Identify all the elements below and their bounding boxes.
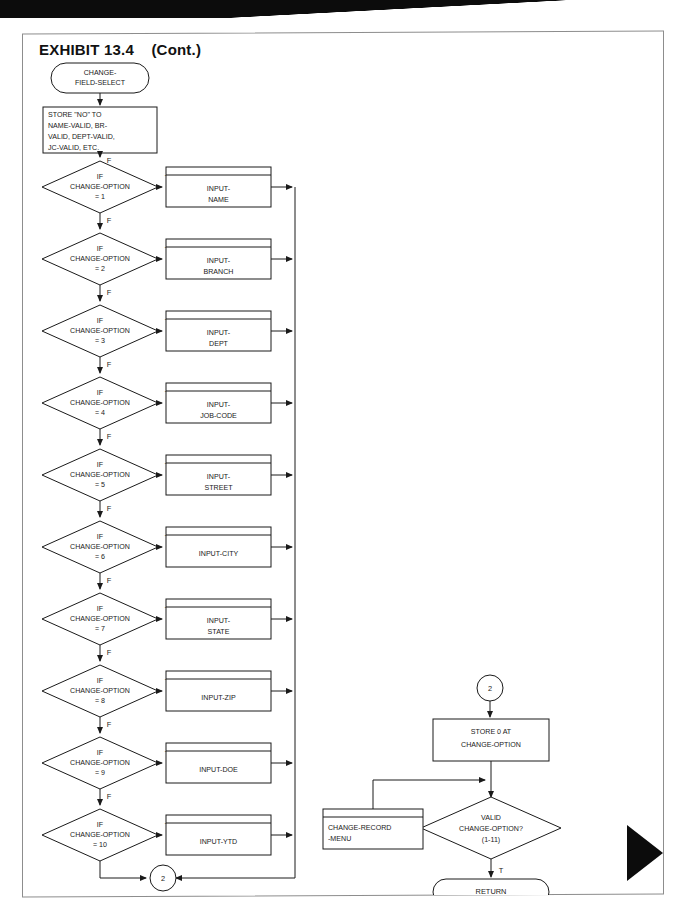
connector-right-2: 2	[477, 675, 503, 701]
decision-3-line2: CHANGE-OPTION	[70, 327, 130, 335]
change-record-menu-module: CHANGE-RECORD -MENU	[323, 809, 423, 849]
module-input-job-code: INPUT-JOB-CODE	[166, 383, 271, 423]
module-input-city: INPUT-CITY	[166, 527, 271, 567]
decision-2-false-label: F	[107, 216, 112, 225]
module-6-line1: INPUT-CITY	[199, 550, 239, 558]
decision-6-false-label: F	[107, 504, 112, 513]
decision-2-line3: = 2	[95, 265, 105, 273]
store-zero-process-box: STORE 0 AT CHANGE-OPTION	[433, 719, 549, 761]
decision-10-line2: CHANGE-OPTION	[70, 831, 130, 839]
module-1-line1: INPUT-	[207, 185, 231, 193]
page-sheet: EXHIBIT 13.4 (Cont.) CHANGE- FIELD-SELEC…	[22, 31, 664, 898]
valid-line3: (1-11)	[482, 836, 500, 844]
decision-3-line1: IF	[97, 317, 104, 325]
module-input-branch: INPUT-BRANCH	[166, 239, 271, 279]
decision-9-false-label: F	[107, 720, 112, 729]
decision-10-line1: IF	[97, 821, 104, 829]
menu-line2: -MENU	[328, 835, 351, 843]
module-2-line2: BRANCH	[204, 268, 234, 276]
decision-1-line2: CHANGE-OPTION	[70, 183, 130, 191]
decision-5-line3: = 5	[95, 481, 105, 489]
module-5-line2: STREET	[205, 484, 234, 492]
decision-change-option-3: IFCHANGE-OPTION= 3	[42, 305, 158, 357]
decision-10-line3: = 10	[93, 841, 107, 849]
decision-change-option-4: IFCHANGE-OPTION= 4	[42, 377, 158, 429]
module-4-line2: JOB-CODE	[200, 412, 237, 420]
decision-10-false-label: F	[107, 792, 112, 801]
decision-5-line2: CHANGE-OPTION	[70, 471, 130, 479]
module-input-street: INPUT-STREET	[166, 455, 271, 495]
decision-9-line1: IF	[97, 749, 104, 757]
connector-last-false-to-connector-2	[100, 861, 146, 878]
decision-change-option-6: IFCHANGE-OPTION= 6	[42, 521, 158, 573]
module-input-name: INPUT-NAME	[166, 167, 271, 207]
module-10-line1: INPUT-YTD	[200, 838, 237, 846]
decision-6-line1: IF	[97, 533, 104, 541]
scan-top-black-band	[0, 0, 684, 18]
decision-9-line2: CHANGE-OPTION	[70, 759, 130, 767]
init-line3: VALID, DEPT-VALID,	[48, 133, 115, 141]
module-8-line1: INPUT-ZIP	[201, 694, 236, 702]
decision-7-line2: CHANGE-OPTION	[70, 615, 130, 623]
decision-4-line1: IF	[97, 389, 104, 397]
decision-8-line2: CHANGE-OPTION	[70, 687, 130, 695]
module-input-state: INPUT-STATE	[166, 599, 271, 639]
store-zero-line1: STORE 0 AT	[471, 728, 512, 736]
page-tab-marker	[627, 825, 663, 881]
store-zero-line2: CHANGE-OPTION	[461, 741, 521, 749]
decision-change-option-5: IFCHANGE-OPTION= 5	[42, 449, 158, 501]
module-3-line2: DEPT	[209, 340, 229, 348]
init-process-box: STORE "NO" TO NAME-VALID, BR- VALID, DEP…	[43, 107, 157, 153]
module-5-line1: INPUT-	[207, 473, 231, 481]
menu-line1: CHANGE-RECORD	[328, 824, 391, 832]
decision-1-false-label: F	[107, 156, 112, 165]
decision-4-false-label: F	[107, 360, 112, 369]
decision-7-line3: = 7	[95, 625, 105, 633]
decision-1-line3: = 1	[95, 193, 105, 201]
decision-8-line1: IF	[97, 677, 104, 685]
start-terminal-line1: CHANGE-	[84, 69, 117, 77]
module-2-line1: INPUT-	[207, 257, 231, 265]
connector-right-2-label: 2	[488, 684, 492, 693]
decision-3-false-label: F	[107, 288, 112, 297]
module-input-doe: INPUT-DOE	[166, 743, 271, 783]
decision-change-option-2: IFCHANGE-OPTION= 2	[42, 233, 158, 285]
decision-8-false-label: F	[107, 648, 112, 657]
valid-change-option-decision: VALID CHANGE-OPTION? (1-11) F T	[409, 797, 561, 875]
init-line2: NAME-VALID, BR-	[48, 122, 108, 130]
decision-2-line1: IF	[97, 245, 104, 253]
valid-line2: CHANGE-OPTION?	[459, 825, 523, 833]
decision-ladder: FIFCHANGE-OPTION= 1TINPUT-NAMEFIFCHANGE-…	[42, 153, 292, 878]
decision-9-line3: = 9	[95, 769, 105, 777]
return-terminal-label: RETURN	[476, 887, 507, 895]
init-line4: JC-VALID, ETC.	[48, 144, 99, 152]
decision-change-option-8: IFCHANGE-OPTION= 8	[42, 665, 158, 717]
module-3-line1: INPUT-	[207, 329, 231, 337]
decision-change-option-9: IFCHANGE-OPTION= 9	[42, 737, 158, 789]
connector-bottom-2: 2	[150, 865, 176, 891]
decision-6-line3: = 6	[95, 553, 105, 561]
module-1-line2: NAME	[208, 196, 229, 204]
valid-true-label: T	[499, 866, 504, 875]
module-input-ytd: INPUT-YTD	[166, 815, 271, 855]
decision-7-line1: IF	[97, 605, 104, 613]
decision-7-false-label: F	[107, 576, 112, 585]
flowchart-canvas: CHANGE- FIELD-SELECT STORE "NO" TO NAME-…	[23, 33, 663, 895]
module-input-zip: INPUT-ZIP	[166, 671, 271, 711]
decision-5-line1: IF	[97, 461, 104, 469]
module-7-line1: INPUT-	[207, 617, 231, 625]
module-7-line2: STATE	[208, 628, 230, 636]
decision-change-option-1: IFCHANGE-OPTION= 1	[42, 161, 158, 213]
connector-menu-loopback	[373, 780, 485, 809]
decision-3-line3: = 3	[95, 337, 105, 345]
init-line1: STORE "NO" TO	[48, 111, 102, 119]
decision-4-line2: CHANGE-OPTION	[70, 399, 130, 407]
decision-2-line2: CHANGE-OPTION	[70, 255, 130, 263]
decision-change-option-7: IFCHANGE-OPTION= 7	[42, 593, 158, 645]
start-terminal-line2: FIELD-SELECT	[75, 79, 126, 87]
connector-bottom-2-label: 2	[161, 874, 165, 883]
decision-5-false-label: F	[107, 432, 112, 441]
module-input-dept: INPUT-DEPT	[166, 311, 271, 351]
decision-1-line1: IF	[97, 173, 104, 181]
start-terminal: CHANGE- FIELD-SELECT	[51, 63, 149, 93]
